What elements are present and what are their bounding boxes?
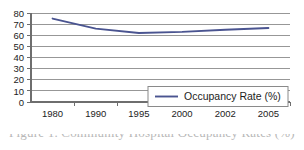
y-axis-tickmarks [27,13,31,102]
y-tick-label: 0 [19,97,24,108]
figure-caption: Figure 1. Community Hospital Occupancy R… [0,134,304,141]
x-tick-label: 1990 [85,108,106,119]
y-tick-label: 10 [13,86,24,97]
figure-container: 80 70 60 50 40 30 20 10 0 1980 [0,0,304,150]
line-chart: 80 70 60 50 40 30 20 10 0 1980 [0,0,304,134]
y-tick-label: 60 [13,30,24,41]
x-tick-label: 1995 [128,108,149,119]
caption-strip: Figure 1. Community Hospital Occupancy R… [0,134,304,150]
y-tick-label: 40 [13,52,24,63]
y-tick-label: 50 [13,41,24,52]
gridlines [31,13,290,91]
y-tick-label: 20 [13,74,24,85]
x-axis-labels: 1980 1990 1995 2000 2002 2005 [42,108,279,119]
legend-label-occupancy-rate: Occupancy Rate (%) [184,90,281,102]
x-tick-label: 2005 [258,108,279,119]
y-tick-label: 80 [13,8,24,19]
x-tick-label: 2002 [215,108,236,119]
x-tick-label: 2000 [172,108,193,119]
x-tick-label: 1980 [42,108,63,119]
y-tick-label: 30 [13,63,24,74]
y-tick-label: 70 [13,19,24,30]
chart-canvas: 80 70 60 50 40 30 20 10 0 1980 [0,0,304,134]
y-axis-labels: 80 70 60 50 40 30 20 10 0 [13,8,24,108]
chart-legend[interactable]: Occupancy Rate (%) [148,87,288,107]
series-line-occupancy-rate [53,19,269,33]
